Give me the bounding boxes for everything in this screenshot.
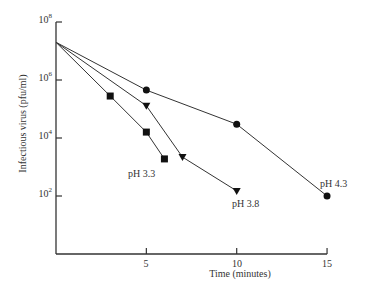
square-marker <box>161 155 168 162</box>
y-tick-label: 108 <box>26 14 52 25</box>
y-tick-label: 102 <box>26 188 52 199</box>
chart: 108 106 104 102 5 10 15 Time (minutes) I… <box>0 0 366 300</box>
circle-marker <box>324 193 331 200</box>
x-axis-label: Time (minutes) <box>150 268 330 279</box>
circle-marker <box>143 87 150 94</box>
series-label-ph-3-3: pH 3.3 <box>128 168 155 179</box>
square-marker <box>143 129 150 136</box>
square-marker <box>107 93 114 100</box>
triangle-marker <box>142 103 150 110</box>
y-axis-label: Infectious virus (pfu/ml) <box>17 34 28 214</box>
y-tick-label: 106 <box>26 72 52 83</box>
plot-area <box>0 0 366 300</box>
series-line <box>56 42 164 159</box>
series-label-ph-4-3: pH 4.3 <box>320 178 347 189</box>
triangle-marker <box>233 188 241 195</box>
circle-marker <box>233 121 240 128</box>
series-label-ph-3-8: pH 3.8 <box>232 198 259 209</box>
triangle-marker <box>178 154 186 161</box>
y-tick-label: 104 <box>26 130 52 141</box>
series-line <box>56 42 327 196</box>
